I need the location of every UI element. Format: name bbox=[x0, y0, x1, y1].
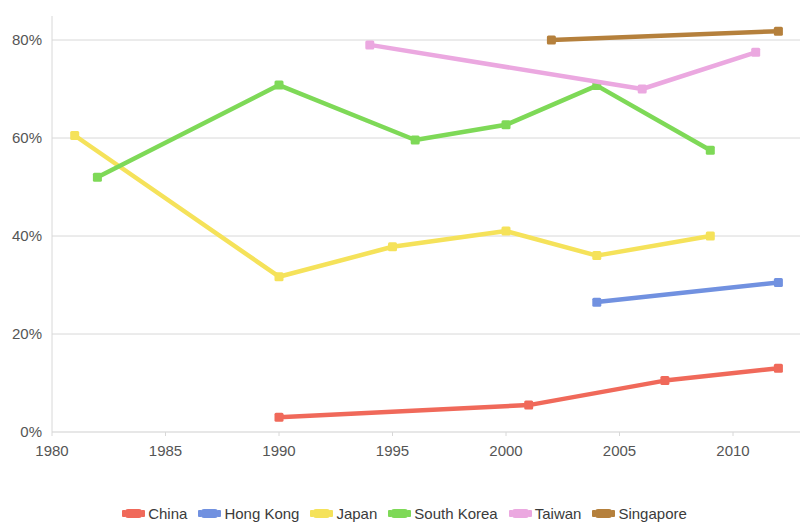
y-axis-tick-label: 60% bbox=[12, 129, 42, 146]
legend-label: South Korea bbox=[414, 505, 497, 522]
legend-item-japan[interactable]: Japan bbox=[313, 505, 377, 522]
y-axis-tick-label: 20% bbox=[12, 325, 42, 342]
plot-area: 0%20%40%60%80%19801985199019952000200520… bbox=[0, 0, 812, 528]
legend-item-hong-kong[interactable]: Hong Kong bbox=[201, 505, 299, 522]
legend-swatch-icon bbox=[595, 509, 612, 518]
data-point-marker bbox=[638, 85, 647, 94]
legend-swatch-icon bbox=[391, 509, 408, 518]
data-point-marker bbox=[388, 242, 397, 251]
legend-label: China bbox=[148, 505, 187, 522]
y-axis-tick-label: 0% bbox=[20, 423, 42, 440]
data-point-marker bbox=[411, 135, 420, 144]
legend-swatch-icon bbox=[313, 509, 330, 518]
legend-swatch-icon bbox=[125, 509, 142, 518]
y-axis-tick-label: 80% bbox=[12, 31, 42, 48]
series-line-china bbox=[279, 368, 778, 417]
data-point-marker bbox=[592, 298, 601, 307]
series-line-south-korea bbox=[97, 85, 710, 177]
data-point-marker bbox=[660, 376, 669, 385]
x-axis-tick-label: 1990 bbox=[262, 442, 295, 459]
line-chart: 0%20%40%60%80%19801985199019952000200520… bbox=[0, 0, 812, 528]
legend-label: Taiwan bbox=[535, 505, 582, 522]
data-point-marker bbox=[706, 146, 715, 155]
legend-item-taiwan[interactable]: Taiwan bbox=[512, 505, 582, 522]
data-point-marker bbox=[93, 173, 102, 182]
x-axis-tick-label: 2005 bbox=[603, 442, 636, 459]
legend-item-south-korea[interactable]: South Korea bbox=[391, 505, 497, 522]
data-point-marker bbox=[706, 232, 715, 241]
data-point-marker bbox=[547, 36, 556, 45]
series-line-hong-kong bbox=[597, 283, 779, 303]
x-axis-tick-label: 1985 bbox=[149, 442, 182, 459]
series-line-taiwan bbox=[370, 45, 756, 89]
data-point-marker bbox=[774, 364, 783, 373]
data-point-marker bbox=[751, 48, 760, 57]
series-line-singapore bbox=[551, 31, 778, 40]
data-point-marker bbox=[502, 227, 511, 236]
data-point-marker bbox=[502, 120, 511, 129]
legend-label: Japan bbox=[336, 505, 377, 522]
data-point-marker bbox=[275, 81, 284, 90]
legend-swatch-icon bbox=[512, 509, 529, 518]
x-axis-tick-label: 2000 bbox=[489, 442, 522, 459]
series-line-japan bbox=[75, 136, 711, 277]
data-point-marker bbox=[524, 401, 533, 410]
data-point-marker bbox=[275, 413, 284, 422]
x-axis-tick-label: 1995 bbox=[376, 442, 409, 459]
legend-label: Singapore bbox=[618, 505, 686, 522]
legend-label: Hong Kong bbox=[224, 505, 299, 522]
x-axis-tick-label: 1980 bbox=[35, 442, 68, 459]
data-point-marker bbox=[774, 27, 783, 36]
legend-item-china[interactable]: China bbox=[125, 505, 187, 522]
data-point-marker bbox=[592, 251, 601, 260]
legend-swatch-icon bbox=[201, 509, 218, 518]
x-axis-tick-label: 2010 bbox=[716, 442, 749, 459]
data-point-marker bbox=[70, 131, 79, 140]
chart-legend: ChinaHong KongJapanSouth KoreaTaiwanSing… bbox=[0, 505, 812, 522]
data-point-marker bbox=[365, 40, 374, 49]
y-axis-tick-label: 40% bbox=[12, 227, 42, 244]
data-point-marker bbox=[774, 278, 783, 287]
legend-item-singapore[interactable]: Singapore bbox=[595, 505, 686, 522]
data-point-marker bbox=[275, 272, 284, 281]
